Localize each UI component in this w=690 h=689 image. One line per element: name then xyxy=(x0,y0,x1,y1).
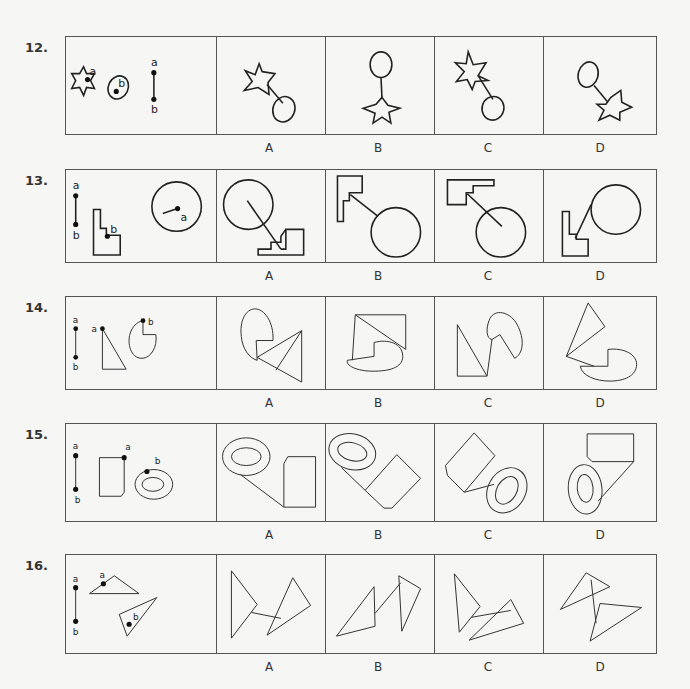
question-number-16: 16. xyxy=(25,558,48,573)
question-14-row: a b a b xyxy=(65,296,657,390)
q16-label-a: A xyxy=(259,660,279,674)
q16-label-d: D xyxy=(590,660,610,674)
svg-text:a: a xyxy=(73,574,78,584)
q15-label-d: D xyxy=(590,528,610,542)
q13-label-c: C xyxy=(478,269,498,283)
svg-text:b: b xyxy=(73,229,80,242)
q14-label-c: C xyxy=(478,396,498,410)
svg-text:a: a xyxy=(73,315,78,325)
svg-text:b: b xyxy=(148,317,154,327)
q15-given-figure: a b a b xyxy=(66,424,216,521)
question-number-14: 14. xyxy=(25,300,48,315)
q16-option-b-figure[interactable] xyxy=(325,555,435,653)
svg-text:b: b xyxy=(151,103,158,116)
q12-label-b: B xyxy=(368,141,388,155)
q12-option-d-figure[interactable] xyxy=(543,37,657,134)
q13-label-b: B xyxy=(368,269,388,283)
q14-option-c-figure[interactable] xyxy=(434,297,544,389)
q12-option-b-figure[interactable] xyxy=(325,37,435,134)
question-number-15: 15. xyxy=(25,427,48,442)
svg-text:a: a xyxy=(99,570,104,580)
label-a: a xyxy=(90,65,97,78)
q13-option-a-figure[interactable] xyxy=(216,170,326,262)
q15-label-c: C xyxy=(478,528,498,542)
q14-label-b: B xyxy=(368,396,388,410)
q12-given-svg: a b a b xyxy=(66,37,216,134)
question-15-row: a b a b xyxy=(65,423,657,522)
svg-text:a: a xyxy=(73,179,80,192)
q16-option-d-figure[interactable] xyxy=(543,555,657,653)
question-13-row: a b b a xyxy=(65,169,657,263)
q13-label-a: A xyxy=(259,269,279,283)
q15-option-a-figure[interactable] xyxy=(216,424,326,521)
q14-label-d: D xyxy=(590,396,610,410)
svg-text:b: b xyxy=(110,223,117,236)
question-12-row: a b a b xyxy=(65,36,657,135)
svg-text:a: a xyxy=(151,56,158,69)
q15-label-b: B xyxy=(368,528,388,542)
q14-option-b-figure[interactable] xyxy=(325,297,435,389)
q13-option-d-figure[interactable] xyxy=(543,170,657,262)
label-b: b xyxy=(118,77,125,90)
q13-option-b-figure[interactable] xyxy=(325,170,435,262)
q15-label-a: A xyxy=(259,528,279,542)
svg-text:b: b xyxy=(133,612,139,622)
question-16-row: a b a b xyxy=(65,554,657,654)
q15-option-d-figure[interactable] xyxy=(543,424,657,521)
svg-text:a: a xyxy=(125,442,130,452)
q12-option-c-figure[interactable] xyxy=(434,37,544,134)
q13-option-c-figure[interactable] xyxy=(434,170,544,262)
q16-option-a-figure[interactable] xyxy=(216,555,326,653)
svg-text:b: b xyxy=(75,495,81,505)
svg-text:a: a xyxy=(92,324,97,334)
q14-option-a-figure[interactable] xyxy=(216,297,326,389)
q16-label-b: B xyxy=(368,660,388,674)
q12-label-a: A xyxy=(259,141,279,155)
svg-text:b: b xyxy=(73,362,79,372)
svg-text:a: a xyxy=(181,211,188,224)
q16-label-c: C xyxy=(478,660,498,674)
question-number-12: 12. xyxy=(25,40,48,55)
question-number-13: 13. xyxy=(25,173,48,188)
q12-label-c: C xyxy=(478,141,498,155)
q13-label-d: D xyxy=(590,269,610,283)
q13-given-figure: a b b a xyxy=(66,170,216,262)
q14-option-d-figure[interactable] xyxy=(543,297,657,389)
svg-text:b: b xyxy=(155,456,161,466)
svg-text:b: b xyxy=(73,627,79,637)
q14-given-figure: a b a b xyxy=(66,297,216,389)
q15-option-c-figure[interactable] xyxy=(434,424,544,521)
q16-option-c-figure[interactable] xyxy=(434,555,544,653)
q12-label-d: D xyxy=(590,141,610,155)
q14-label-a: A xyxy=(259,396,279,410)
q15-option-b-figure[interactable] xyxy=(325,424,435,521)
svg-text:a: a xyxy=(73,441,78,451)
q12-option-a-figure[interactable] xyxy=(216,37,326,134)
q12-given-figure: a b a b xyxy=(66,37,216,134)
q16-given-figure: a b a b xyxy=(66,555,216,653)
